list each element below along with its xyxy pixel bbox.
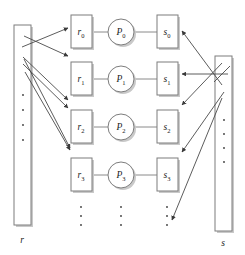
ellipsis-dot [166, 224, 168, 226]
diagram-row-3: r3 P3 s3 [71, 158, 180, 193]
left-column-label: r [20, 235, 24, 245]
left-column-dot [22, 109, 24, 111]
right-column-s: s [215, 56, 234, 248]
diagram-row-2: r2 P2 s2 [71, 110, 180, 145]
ellipsis-dot [120, 215, 122, 217]
ellipsis-dot [166, 206, 168, 208]
right-column-label: s [221, 238, 225, 248]
ellipsis-dot [80, 224, 82, 226]
s-column-ellipsis [166, 206, 168, 226]
diagram-canvas: r s r0 P0 s0 [0, 0, 245, 255]
ellipsis-dot [120, 224, 122, 226]
right-column-dot [223, 119, 225, 121]
ellipsis-dot [166, 215, 168, 217]
right-column-s-box [215, 56, 232, 231]
left-column-dot [22, 139, 24, 141]
left-column-dot [22, 94, 24, 96]
ellipsis-dot [80, 206, 82, 208]
block-diagram-svg: r s r0 P0 s0 [0, 0, 245, 255]
right-column-dot [223, 147, 225, 149]
ellipsis-dot [120, 206, 122, 208]
p-column-ellipsis [120, 206, 122, 226]
left-column-dot [22, 124, 24, 126]
right-column-dot [223, 161, 225, 163]
diagram-row-0: r0 P0 s0 [71, 15, 180, 50]
diagram-row-1: r1 P1 s1 [71, 62, 180, 97]
right-column-dot [223, 133, 225, 135]
r-column-ellipsis [80, 206, 82, 226]
ellipsis-dot [80, 215, 82, 217]
